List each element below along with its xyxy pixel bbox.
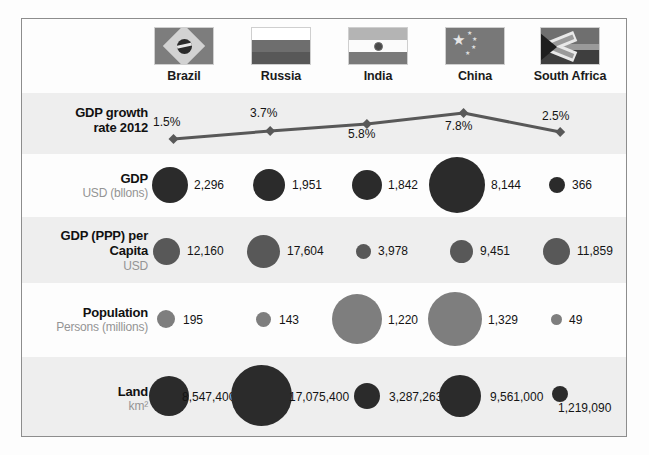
country-name-india: India [326, 69, 430, 83]
row-label-gdp-growth-rate: GDP growth rate 2012 [22, 105, 148, 136]
population-bubble-brazil [157, 310, 175, 328]
row-label-land: Land km² [22, 384, 148, 413]
land-value-china: 9,561,000 [490, 390, 543, 404]
ppp-value-south-africa: 11,859 [577, 244, 613, 258]
south-africa-flag-icon [540, 27, 600, 65]
country-column-brazil: Brazil [132, 27, 236, 83]
row-gdp-growth-rate: GDP growth rate 2012 1.5% 3.7% 5.8% 7.8%… [22, 93, 626, 154]
gdp-value-russia: 1,951 [292, 178, 322, 192]
population-value-brazil: 195 [183, 313, 203, 327]
growth-value-brazil: 1.5% [153, 115, 180, 129]
land-value-brazil: 8,547,400 [182, 390, 235, 404]
country-column-russia: Russia [229, 27, 333, 83]
country-name-china: China [423, 69, 527, 83]
ppp-value-russia: 17,604 [287, 244, 324, 258]
india-flag-icon [348, 27, 408, 65]
population-bubble-india [332, 294, 382, 344]
land-value-russia: 17,075,400 [289, 390, 349, 404]
population-value-china: 1,329 [488, 313, 518, 327]
land-bubble-india [354, 383, 380, 409]
row-population: Population Persons (millions) 195 143 1,… [22, 283, 626, 357]
gdp-value-south-africa: 366 [572, 178, 592, 192]
infographic-frame: Brazil Russia India ★ ★ ★ [21, 18, 627, 437]
population-bubble-russia [256, 312, 271, 327]
brics-infographic: Brazil Russia India ★ ★ ★ [0, 0, 649, 455]
gdp-bubble-russia [253, 169, 285, 201]
country-name-russia: Russia [229, 69, 333, 83]
row-gdp-ppp-per-capita: GDP (PPP) per Capita USD 12,160 17,604 3… [22, 217, 626, 283]
country-name-south-africa: South Africa [518, 69, 622, 83]
gdp-bubble-brazil [152, 167, 188, 203]
country-column-india: India [326, 27, 430, 83]
growth-value-south-africa: 2.5% [542, 109, 569, 123]
ppp-value-india: 3,978 [378, 244, 408, 258]
ppp-bubble-india [356, 244, 371, 259]
china-flag-icon: ★ ★ ★ ★ ★ [445, 27, 505, 65]
growth-value-russia: 3.7% [250, 106, 277, 120]
population-value-south-africa: 49 [569, 313, 582, 327]
country-column-south-africa: South Africa [518, 27, 622, 83]
population-value-india: 1,220 [388, 313, 418, 327]
row-gdp: GDP USD (bllons) 2,296 1,951 1,842 8,144… [22, 154, 626, 217]
ppp-bubble-china [450, 240, 473, 263]
brazil-flag-icon [154, 27, 214, 65]
land-bubble-china [439, 375, 481, 417]
gdp-bubble-china [429, 157, 485, 213]
ppp-value-brazil: 12,160 [187, 244, 224, 258]
land-bubble-russia [231, 365, 292, 426]
country-column-china: ★ ★ ★ ★ ★ China [423, 27, 527, 83]
growth-value-india: 5.8% [348, 127, 375, 141]
gdp-bubble-india [352, 170, 382, 200]
row-label-population: Population Persons (millions) [22, 305, 148, 334]
row-label-gdp-ppp-per-capita: GDP (PPP) per Capita USD [22, 228, 148, 273]
country-header-row: Brazil Russia India ★ ★ ★ [22, 19, 626, 93]
ppp-bubble-russia [247, 235, 280, 268]
land-bubble-south-africa [552, 386, 568, 402]
land-value-india: 3,287,263 [389, 390, 442, 404]
ppp-value-china: 9,451 [480, 244, 510, 258]
row-label-gdp: GDP USD (bllons) [22, 171, 148, 200]
growth-value-china: 7.8% [445, 119, 472, 133]
population-value-russia: 143 [279, 313, 299, 327]
population-bubble-china [428, 292, 482, 346]
row-land: Land km² 8,547,400 17,075,400 3,287,263 … [22, 357, 626, 437]
gdp-value-brazil: 2,296 [194, 178, 224, 192]
ppp-bubble-south-africa [543, 238, 570, 265]
country-name-brazil: Brazil [132, 69, 236, 83]
land-value-south-africa: 1,219,090 [558, 401, 611, 415]
russia-flag-icon [251, 27, 311, 65]
gdp-value-china: 8,144 [491, 178, 521, 192]
population-bubble-south-africa [551, 314, 562, 325]
gdp-value-india: 1,842 [388, 178, 418, 192]
ppp-bubble-brazil [153, 238, 180, 265]
gdp-bubble-south-africa [549, 177, 565, 193]
